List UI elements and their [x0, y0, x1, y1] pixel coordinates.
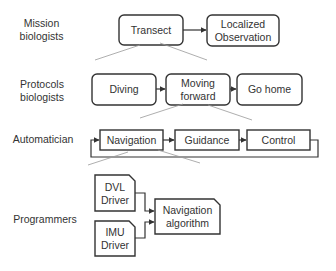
node-dvl-driver: DVL Driver — [95, 176, 135, 211]
node-imu-driver: IMU Driver — [95, 222, 135, 256]
node-navigation-algorithm: Navigation algorithm — [155, 200, 220, 234]
node-control: Control — [247, 130, 310, 150]
edge-imu-to-navigation-algorithm — [135, 222, 154, 238]
refinement-line-left — [95, 45, 140, 60]
node-go-home: Go home — [237, 74, 302, 105]
refinement-line-right — [160, 43, 207, 60]
refinement-line-left — [88, 152, 128, 165]
node-navigation: Navigation — [100, 130, 163, 150]
refinement-line-right — [208, 105, 252, 120]
node-transect: Transect — [119, 15, 183, 45]
role-label-programmers: Programmers — [10, 213, 80, 226]
refinement-line-left — [140, 104, 183, 118]
role-label-mission-biologists: Mission biologists — [14, 17, 69, 43]
role-label-automatician: Automatician — [8, 133, 78, 146]
node-diving: Diving — [92, 74, 156, 105]
edge-dvl-to-navigation-algorithm — [135, 193, 154, 211]
node-guidance: Guidance — [175, 130, 239, 150]
role-label-protocols-biologists: Protocols biologists — [12, 78, 72, 104]
node-localized-observation: Localized Observation — [207, 15, 279, 46]
node-moving-forward: Moving forward — [166, 74, 230, 105]
